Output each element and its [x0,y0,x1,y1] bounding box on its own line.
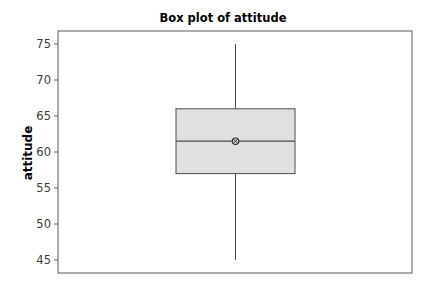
y-tick-label: 70 [36,73,51,87]
box-plot-chart: Box plot of attitude attitude 4550556065… [0,0,435,288]
y-axis-label: attitude [21,126,35,181]
box-group [176,44,295,260]
y-tick-label: 60 [36,145,51,159]
y-tick-label: 75 [36,37,51,51]
y-axis: 45505560657075 [36,37,58,267]
y-tick-label: 65 [36,109,51,123]
y-tick-label: 55 [36,181,51,195]
mean-marker [232,138,238,144]
chart-title: Box plot of attitude [160,11,287,25]
y-tick-label: 50 [36,217,51,231]
y-tick-label: 45 [36,253,51,267]
